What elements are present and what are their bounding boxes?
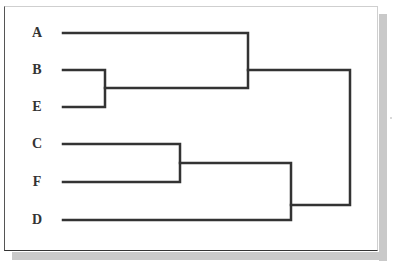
branch-a-be <box>63 33 248 88</box>
scan-speck <box>390 117 392 119</box>
branch-b-e <box>63 70 105 107</box>
branch-root <box>248 70 350 205</box>
branch-cf-d <box>63 163 291 220</box>
branch-c-f <box>63 144 180 182</box>
dendrogram <box>0 0 403 272</box>
